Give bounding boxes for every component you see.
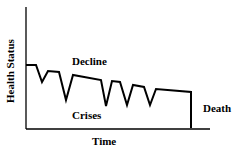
health-trajectory-line xyxy=(26,65,191,128)
y-axis-label: Health Status xyxy=(4,39,16,103)
death-annotation: Death xyxy=(203,102,231,114)
chart-canvas xyxy=(0,0,243,150)
x-axis-label: Time xyxy=(92,135,116,147)
crises-annotation: Crises xyxy=(72,109,101,121)
decline-annotation: Decline xyxy=(72,55,107,67)
